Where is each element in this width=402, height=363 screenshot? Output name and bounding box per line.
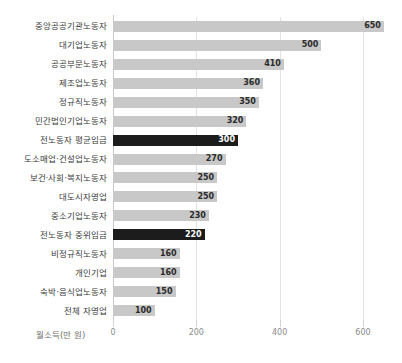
category-label: 숙박·음식업노동자 xyxy=(40,287,107,297)
category-label: 중앙공공기관노동자 xyxy=(35,21,107,31)
category-label: 중소기업노동자 xyxy=(51,211,107,221)
category-label: 대도시자영업 xyxy=(59,192,107,202)
category-label: 전노동자 평균임금 xyxy=(40,135,107,145)
bar xyxy=(113,21,384,32)
bar-value-label: 250 xyxy=(197,173,214,183)
bar xyxy=(113,59,284,70)
x-tick-label: 0 xyxy=(110,328,115,337)
bar-value-label: 220 xyxy=(185,230,202,240)
bar-value-label: 360 xyxy=(243,78,260,88)
bar-value-label: 350 xyxy=(239,97,256,107)
bar xyxy=(113,97,259,108)
category-label: 개인기업 xyxy=(75,268,107,278)
bar-value-label: 230 xyxy=(189,211,206,221)
bar-value-label: 160 xyxy=(160,249,177,259)
tick-mark xyxy=(280,320,281,327)
category-label: 보건·사회·복지노동자 xyxy=(30,173,107,183)
tick-mark xyxy=(363,320,364,327)
tick-mark xyxy=(196,320,197,327)
category-label: 정규직노동자 xyxy=(59,97,107,107)
bar-value-label: 410 xyxy=(264,59,281,69)
gridline xyxy=(363,17,364,320)
bar xyxy=(113,40,321,51)
category-label: 전체 자영업 xyxy=(64,306,107,316)
bar-value-label: 250 xyxy=(197,192,214,202)
category-label: 비정규직노동자 xyxy=(51,249,107,259)
category-label: 도소매업·건설업노동자 xyxy=(24,154,107,164)
category-label: 전노동자 중위임금 xyxy=(40,230,107,240)
x-tick-label: 200 xyxy=(189,328,204,337)
bar-value-label: 300 xyxy=(218,135,235,145)
bar xyxy=(113,78,263,89)
category-label: 공공부문노동자 xyxy=(51,59,107,69)
bar-value-label: 100 xyxy=(135,306,152,316)
bar-chart: 0200400600 중앙공공기관노동자대기업노동자공공부문노동자제조업노동자정… xyxy=(0,0,402,363)
bar-value-label: 160 xyxy=(160,268,177,278)
x-axis-title: 월소득(만 원) xyxy=(36,328,85,340)
x-tick-label: 400 xyxy=(272,328,287,337)
category-label: 민간법인기업노동자 xyxy=(35,116,107,126)
x-tick-label: 600 xyxy=(355,328,370,337)
category-label: 대기업노동자 xyxy=(59,40,107,50)
bar-value-label: 320 xyxy=(227,116,244,126)
bar-value-label: 500 xyxy=(302,40,319,50)
category-label: 제조업노동자 xyxy=(59,78,107,88)
bar-value-label: 650 xyxy=(364,21,381,31)
bar-value-label: 270 xyxy=(206,154,223,164)
bar-value-label: 150 xyxy=(156,287,173,297)
tick-mark xyxy=(113,320,114,327)
